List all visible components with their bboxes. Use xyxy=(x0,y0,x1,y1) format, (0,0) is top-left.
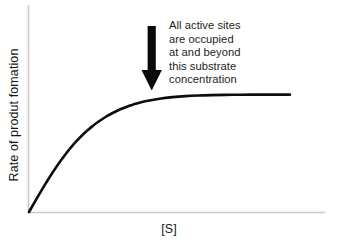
y-axis-label-container: Rate of produt fomation xyxy=(0,0,26,251)
annotation-text-block: All active sites are occupied at and bey… xyxy=(169,19,289,87)
down-arrow-icon xyxy=(142,26,162,91)
x-axis-label: [S] xyxy=(0,222,338,236)
annotation-line-2: are occupied xyxy=(169,33,289,47)
annotation-line-3: at and beyond xyxy=(169,46,289,60)
y-axis-label: Rate of produt fomation xyxy=(7,27,21,203)
annotation-line-5: concentration xyxy=(169,73,289,87)
annotation-line-1: All active sites xyxy=(169,19,289,33)
annotation-line-4: this substrate xyxy=(169,60,289,74)
enzyme-kinetics-figure: Rate of produt fomation [S] All active s… xyxy=(0,0,338,251)
saturation-curve xyxy=(29,95,290,212)
